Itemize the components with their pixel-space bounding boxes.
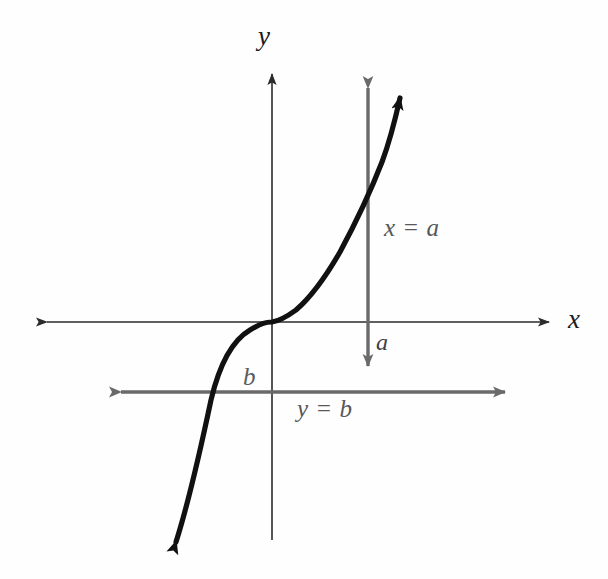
y-axis-label: y — [258, 23, 270, 50]
horizontal-line-tick-label: b — [243, 364, 256, 389]
vertical-line-tick-label: a — [376, 330, 388, 354]
horizontal-line-equation-label: y = b — [297, 396, 352, 421]
graph-figure: y x x = a a b y = b — [0, 0, 608, 579]
graph-canvas — [0, 0, 608, 579]
x-axis-label: x — [568, 306, 580, 333]
vertical-line-equation-label: x = a — [384, 215, 439, 240]
